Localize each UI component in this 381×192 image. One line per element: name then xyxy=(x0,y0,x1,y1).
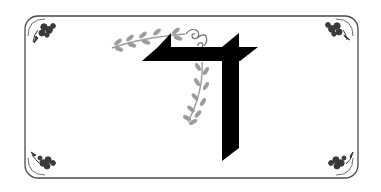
corner-ornament-bottom-left-icon xyxy=(31,152,55,169)
corner-ornament-bottom-right-icon xyxy=(329,152,353,169)
vine-curl-icon xyxy=(186,30,207,48)
corner-ornament-top-right-icon xyxy=(326,23,350,40)
illustration-canvas xyxy=(0,0,381,192)
vine-vertical-icon xyxy=(183,62,210,125)
decorative-frame xyxy=(25,16,358,178)
corner-ornament-top-left-icon xyxy=(33,24,55,43)
dalet-letter-glyph xyxy=(142,33,258,161)
dalet-letter-card xyxy=(0,0,381,192)
